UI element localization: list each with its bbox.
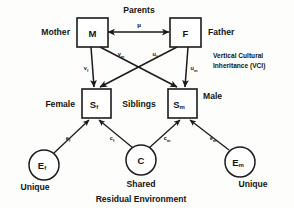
node-sibling-male: Sm [168,89,197,118]
path-label-c-m: cm [164,135,171,143]
label-female: Female [45,99,75,109]
node-mother: M [77,18,108,47]
path-label-v-m: vm [118,51,125,59]
node-shared: C [126,145,156,175]
path-label-v-f: vf [84,65,89,73]
label-mother: Mother [41,27,70,37]
path-label-mu: μ [137,21,141,28]
label-residual-environment: Residual Environment [96,194,187,204]
node-unique-male: Em [225,147,255,177]
father-box-label: F [183,28,189,39]
edge-shared-to-daughter [99,120,133,148]
mother-box-label: M [89,28,97,39]
figure-canvas: M F Sf Sm Ef C Em [0,0,294,208]
node-sibling-female: Sf [82,89,111,118]
label-father: Father [208,27,235,37]
node-unique-female: Ef [29,150,59,180]
path-label-e-m: em [210,135,217,143]
path-diagram: M F Sf Sm Ef C Em [0,0,294,208]
label-male: Male [203,91,222,101]
path-label-c-f: cf [110,135,115,143]
label-parents: Parents [123,5,155,15]
path-label-u-m: um [191,65,198,73]
edge-shared-to-son [149,120,180,148]
label-unique-male: Unique [238,179,267,189]
node-father: F [170,18,201,47]
label-siblings: Siblings [122,99,156,109]
label-vci-line1: Vertical Cultural [213,52,263,59]
label-unique-female: Unique [20,182,49,192]
path-label-u-f: uf [153,51,158,59]
label-vci-line2: Inheritance (VCI) [213,62,265,70]
edge-mother-to-daughter [91,47,94,87]
edge-unique-female-to-daughter [54,120,89,153]
label-shared: Shared [126,179,155,189]
edge-father-to-son [185,47,188,87]
shared-label: C [138,155,145,166]
